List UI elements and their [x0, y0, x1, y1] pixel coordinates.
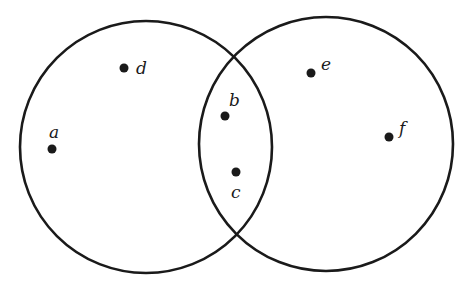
- point-a-label: a: [49, 122, 59, 142]
- point-b: b: [221, 90, 240, 121]
- point-b-dot: [221, 112, 230, 121]
- venn-diagram: a d b c e f: [0, 0, 472, 291]
- point-f: f: [385, 118, 409, 142]
- point-f-label: f: [397, 118, 408, 138]
- point-e-label: e: [321, 54, 331, 74]
- point-a-dot: [48, 145, 57, 154]
- point-d-label: d: [136, 58, 147, 78]
- point-f-dot: [385, 133, 394, 142]
- point-a: a: [48, 122, 60, 154]
- point-d: d: [120, 58, 148, 78]
- point-e: e: [307, 54, 332, 78]
- point-c-dot: [232, 168, 241, 177]
- point-c-label: c: [231, 182, 241, 202]
- point-c: c: [231, 168, 241, 203]
- point-d-dot: [120, 64, 129, 73]
- point-e-dot: [307, 69, 316, 78]
- point-b-label: b: [229, 90, 240, 110]
